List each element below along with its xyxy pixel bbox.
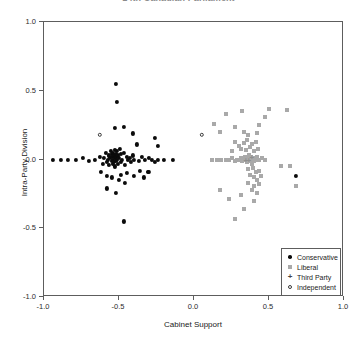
data-point-conservative [105,186,109,190]
data-point-conservative [109,175,113,179]
scatter-plot-chart: 14th Canadian Parliament +++ -1.0-0.50.0… [0,0,357,340]
data-point-conservative [123,181,127,185]
y-tick-label: -1.0 [23,292,36,301]
y-tick-mark [39,227,43,228]
data-point-liberal [215,158,219,162]
x-tick-mark [118,296,119,300]
data-point-liberal [218,130,222,134]
data-point-liberal [239,193,243,197]
data-point-liberal [224,112,228,116]
data-point-conservative [93,157,97,161]
data-point-conservative [114,82,118,86]
data-point-liberal [242,130,246,134]
data-point-liberal [218,188,222,192]
data-point-conservative [73,157,77,161]
data-point-conservative [87,159,91,163]
data-point-liberal [227,197,231,201]
y-axis-title: Intra-Party Division [20,83,29,243]
data-point-conservative [162,157,166,161]
data-point-conservative [294,174,298,178]
data-point-conservative [138,168,142,172]
data-point-liberal [212,122,216,126]
legend-item-independent: Independent [285,282,337,292]
data-point-liberal [250,188,254,192]
data-point-conservative [99,170,103,174]
data-point-conservative [130,131,134,135]
data-point-conservative [51,157,55,161]
data-point-conservative [121,124,125,128]
x-tick-label: 0.5 [263,302,273,311]
legend-label: Independent [295,284,336,291]
data-point-conservative [117,178,121,182]
data-point-liberal [233,140,237,144]
x-tick-label: 0.0 [188,302,198,311]
legend-marker-icon [285,252,295,262]
data-point-conservative [58,157,62,161]
data-point-liberal [246,167,250,171]
data-point-liberal [257,123,261,127]
x-tick-mark [43,296,44,300]
data-point-independent [97,133,101,137]
legend-label: Third Party [295,274,331,281]
data-point-liberal [233,217,237,221]
data-point-conservative [171,157,175,161]
data-point-conservative [121,219,125,223]
x-tick-label: 1.0 [338,302,348,311]
legend-marker-icon: + [285,272,295,282]
y-tick-mark [39,159,43,160]
data-point-liberal [242,207,246,211]
data-point-conservative [125,171,129,175]
x-tick-mark [193,296,194,300]
data-point-liberal [279,164,283,168]
data-point-liberal [263,115,267,119]
data-point-conservative [123,163,127,167]
x-tick-mark [268,296,269,300]
legend-label: Conservative [295,254,338,261]
data-point-liberal [256,147,260,151]
data-point-conservative [136,159,140,163]
data-point-conservative [114,190,118,194]
legend-item-conservative: Conservative [285,252,337,262]
data-point-conservative [135,142,139,146]
data-point-liberal [259,174,263,178]
data-point-conservative [115,100,119,104]
legend-open-circle-icon [288,285,292,289]
data-point-liberal [257,182,261,186]
legend-marker-icon [285,262,295,272]
data-point-liberal [255,191,259,195]
data-point-liberal [255,131,259,135]
data-point-liberal [267,107,271,111]
data-point-third-party: + [248,153,255,160]
y-tick-label: 1.0 [26,17,36,26]
data-point-liberal [263,158,267,162]
data-point-liberal [254,140,258,144]
chart-legend: ConservativeLiberal+Third PartyIndepende… [281,248,341,296]
data-point-conservative [119,173,123,177]
data-point-conservative [147,170,151,174]
legend-filled-circle-icon [288,255,292,259]
data-point-liberal [294,184,298,188]
data-point-conservative [66,157,70,161]
data-point-conservative [153,135,157,139]
y-tick-mark [39,296,43,297]
data-point-liberal [233,125,237,129]
data-point-liberal [246,133,250,137]
data-point-conservative [156,157,160,161]
chart-title: 14th Canadian Parliament [0,0,357,2]
legend-plus-icon: + [288,273,293,281]
data-point-liberal [219,158,223,162]
data-point-liberal [240,109,244,113]
data-point-liberal [239,147,243,151]
data-point-liberal [288,164,292,168]
y-tick-mark [39,90,43,91]
data-point-liberal [245,138,249,142]
y-tick-mark [39,21,43,22]
legend-item-liberal: Liberal [285,262,337,272]
legend-marker-icon [285,282,295,292]
data-point-liberal [210,158,214,162]
data-point-independent [199,133,203,137]
data-point-conservative [112,126,116,130]
data-point-conservative [142,175,146,179]
x-axis-title: Cabinet Support [43,320,343,329]
legend-label: Liberal [295,264,318,271]
